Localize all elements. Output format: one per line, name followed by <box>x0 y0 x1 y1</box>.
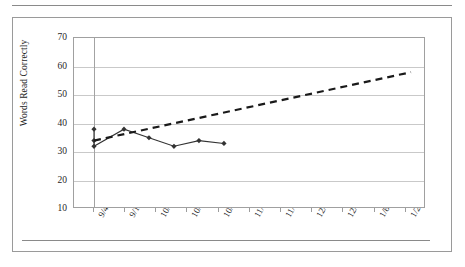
data-point-marker <box>221 141 226 146</box>
data-point-marker <box>196 138 201 143</box>
goal-aim-line <box>94 72 411 140</box>
data-point-marker <box>91 127 96 132</box>
data-series-svg <box>74 38 426 209</box>
y-axis-tick-label: 70 <box>41 32 67 42</box>
data-point-marker <box>121 127 126 132</box>
data-point-marker <box>146 135 151 140</box>
plot-area <box>73 37 425 208</box>
figure-page: Words Read Correctly 70605040302010 9/49… <box>0 0 465 267</box>
data-point-marker <box>91 144 96 149</box>
y-axis-tick-label: 10 <box>41 203 67 213</box>
data-point-marker <box>171 144 176 149</box>
y-axis-tick-label: 20 <box>41 175 67 185</box>
y-axis-tick-label: 50 <box>41 89 67 99</box>
y-axis-tick-label: 60 <box>41 61 67 71</box>
data-path <box>94 129 224 146</box>
y-axis-tick-label: 40 <box>41 118 67 128</box>
y-axis-tick-label: 30 <box>41 146 67 156</box>
